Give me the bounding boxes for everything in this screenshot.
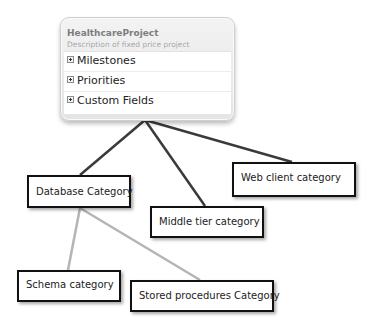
connector-project-middle-tier	[145, 120, 205, 206]
project-title: HealthcareProject	[67, 28, 159, 38]
web-client-category-node[interactable]: Web client category	[232, 162, 356, 197]
section-label: Custom Fields	[77, 94, 154, 107]
node-label: Schema category	[26, 279, 114, 290]
expand-plus-icon[interactable]	[67, 56, 74, 63]
section-priorities[interactable]: Priorities	[64, 72, 231, 92]
section-custom-fields[interactable]: Custom Fields	[64, 92, 231, 112]
node-label: Web client category	[241, 172, 341, 183]
project-card[interactable]: HealthcareProject Description of fixed p…	[60, 17, 235, 121]
project-sections: Milestones Priorities Custom Fields	[64, 51, 231, 114]
stored-procedures-category-node[interactable]: Stored procedures Category	[130, 280, 274, 312]
node-label: Database Category	[36, 186, 133, 197]
diagram-canvas: HealthcareProject Description of fixed p…	[0, 0, 376, 335]
node-label: Middle tier category	[159, 216, 260, 227]
project-description: Description of fixed price project	[67, 40, 189, 49]
database-category-node[interactable]: Database Category	[27, 175, 131, 208]
connector-database-schema	[68, 208, 80, 270]
section-label: Priorities	[77, 74, 125, 87]
node-label: Stored procedures Category	[139, 290, 280, 301]
schema-category-node[interactable]: Schema category	[17, 270, 121, 302]
connector-project-database	[80, 120, 145, 175]
expand-plus-icon[interactable]	[67, 96, 74, 103]
middle-tier-category-node[interactable]: Middle tier category	[150, 206, 264, 238]
section-label: Milestones	[77, 54, 136, 67]
connector-project-web-client	[145, 120, 292, 162]
expand-plus-icon[interactable]	[67, 76, 74, 83]
section-milestones[interactable]: Milestones	[64, 52, 231, 72]
